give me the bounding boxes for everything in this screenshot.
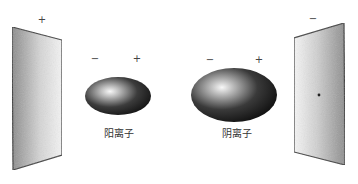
cation-plus-sign: +	[133, 53, 141, 64]
left-plate-body	[12, 27, 62, 170]
cation: − + 阳离子	[85, 53, 151, 139]
ion-diagram: + − − + 阳离子 − + 阴离子	[0, 0, 358, 184]
right-plate-sign: −	[309, 13, 317, 24]
anion-label: 阴离子	[222, 127, 252, 139]
anion: − + 阴离子	[191, 54, 277, 139]
right-plate: −	[294, 13, 345, 165]
anion-minus-sign: −	[206, 54, 214, 65]
left-plate-sign: +	[38, 14, 46, 25]
left-plate: +	[12, 14, 62, 170]
right-plate-dot	[318, 94, 321, 97]
anion-plus-sign: +	[255, 54, 263, 65]
anion-ellipse	[191, 68, 277, 122]
cation-ellipse	[85, 77, 151, 115]
cation-minus-sign: −	[91, 53, 99, 64]
cation-label: 阳离子	[104, 127, 134, 139]
